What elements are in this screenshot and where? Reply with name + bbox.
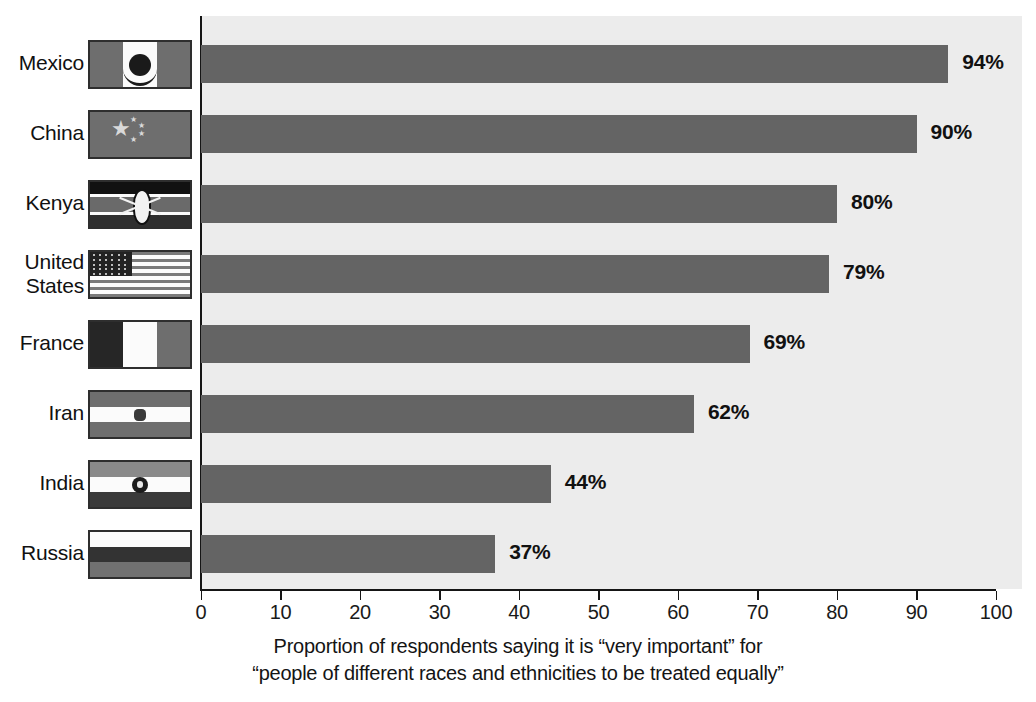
x-axis-tick-label: 10 (270, 601, 292, 624)
country-label: Iran (0, 401, 84, 425)
china-flag: ★★★★★ (88, 110, 192, 159)
flag-star-dot (124, 254, 126, 256)
bar (201, 185, 837, 223)
x-axis-tick-label: 70 (747, 601, 769, 624)
india-flag (88, 460, 192, 509)
country-label: Russia (0, 541, 84, 565)
x-axis-tick-label: 20 (349, 601, 371, 624)
country-label-line: United (0, 250, 84, 274)
bar-value-label: 79% (843, 260, 884, 284)
chart-row: Mexico94% (0, 30, 1036, 100)
chart-row: India44% (0, 450, 1036, 520)
united-states-flag (88, 250, 192, 299)
bar (201, 465, 551, 503)
bar (201, 325, 750, 363)
x-axis-tick-mark (360, 591, 362, 600)
x-axis-tick-label: 100 (980, 601, 1012, 624)
country-label-line: Kenya (0, 191, 84, 215)
x-axis-tick-mark (519, 591, 521, 600)
flag-emblem-center (137, 481, 144, 488)
flag-star-dot (105, 254, 107, 256)
kenya-flag (88, 180, 192, 229)
bar (201, 395, 694, 433)
bar-value-label: 44% (565, 470, 606, 494)
flag-star-dot (118, 273, 120, 275)
flag-star-dot (124, 264, 126, 266)
flag-stripe (90, 562, 190, 577)
flag-star-dot (111, 254, 113, 256)
bar (201, 535, 495, 573)
flag-band (157, 42, 190, 87)
country-label-line: India (0, 471, 84, 495)
x-axis-tick-mark (439, 591, 441, 600)
chart-row: Russia37% (0, 520, 1036, 590)
flag-star-dot (105, 259, 107, 261)
flag-stripe (90, 547, 190, 562)
flag-star-dot (93, 273, 95, 275)
country-label-line: Mexico (0, 51, 84, 75)
bar-value-label: 94% (962, 50, 1003, 74)
country-label: UnitedStates (0, 250, 84, 297)
flag-star-dot (105, 264, 107, 266)
bar (201, 45, 948, 83)
iran-flag (88, 390, 192, 439)
flag-band (90, 42, 123, 87)
flag-star-dot (93, 264, 95, 266)
bar-value-label: 62% (708, 400, 749, 424)
flag-star-dot (99, 264, 101, 266)
chart-row: China★★★★★90% (0, 100, 1036, 170)
flag-star-dot (111, 268, 113, 270)
country-label: China (0, 121, 84, 145)
x-axis-tick-label: 0 (196, 601, 207, 624)
x-axis-tick-label: 90 (906, 601, 928, 624)
bar-value-label: 80% (851, 190, 892, 214)
bar-value-label: 37% (509, 540, 550, 564)
country-label-line: France (0, 331, 84, 355)
flag-star-dot (124, 268, 126, 270)
chart-figure: 0102030405060708090100 Mexico94%China★★★… (0, 0, 1036, 702)
x-axis-tick-label: 30 (429, 601, 451, 624)
bar-value-label: 90% (931, 120, 972, 144)
flag-emblem (134, 409, 146, 421)
x-axis-tick-label: 80 (826, 601, 848, 624)
x-axis-tick-mark (201, 591, 203, 600)
country-label-line: Russia (0, 541, 84, 565)
country-label-line: Iran (0, 401, 84, 425)
flag-star-dot (124, 273, 126, 275)
chart-row: Kenya80% (0, 170, 1036, 240)
flag-star-dot (111, 273, 113, 275)
flag-star-dot (118, 268, 120, 270)
caption-line-2: “people of different races and ethniciti… (0, 660, 1036, 687)
flag-canton (90, 252, 132, 276)
bar-value-label: 69% (764, 330, 805, 354)
country-label: France (0, 331, 84, 355)
flag-star-dot (118, 259, 120, 261)
x-axis-tick-label: 60 (667, 601, 689, 624)
russia-flag (88, 530, 192, 579)
x-axis-tick-mark (916, 591, 918, 600)
flag-stripe (90, 392, 190, 407)
x-axis-tick-mark (757, 591, 759, 600)
flag-stripe (90, 492, 190, 507)
country-label-line: States (0, 274, 84, 298)
x-axis-tick-mark (996, 591, 998, 600)
flag-star-dot (99, 254, 101, 256)
flag-star-dot (118, 254, 120, 256)
flag-stripe (90, 532, 190, 547)
flag-star-dot (118, 264, 120, 266)
flag-stripe (90, 422, 190, 437)
flag-band (123, 322, 156, 367)
country-label: India (0, 471, 84, 495)
country-label: Kenya (0, 191, 84, 215)
flag-star-dot (93, 259, 95, 261)
flag-stripe (90, 287, 190, 290)
france-flag (88, 320, 192, 369)
caption-line-1: Proportion of respondents saying it is “… (0, 633, 1036, 660)
flag-stripe (90, 294, 190, 297)
flag-emblem (132, 477, 148, 493)
flag-band (90, 322, 123, 367)
chart-caption: Proportion of respondents saying it is “… (0, 633, 1036, 687)
flag-star-dot (124, 259, 126, 261)
flag-star-dot (93, 268, 95, 270)
x-axis-tick-label: 40 (508, 601, 530, 624)
